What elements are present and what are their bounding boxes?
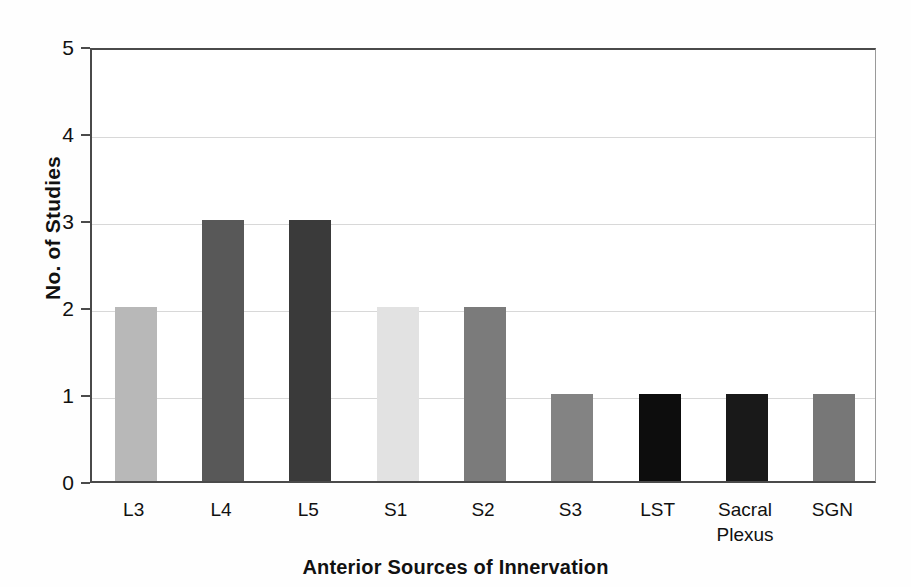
bar-l5 <box>289 220 331 481</box>
y-tick-mark <box>81 395 90 397</box>
bar-chart: No. of Studies 543210 L3L4L5S1S2S3LSTSac… <box>0 0 911 587</box>
bar-lst <box>639 394 681 481</box>
y-tick-label: 2 <box>40 298 74 319</box>
bar-sgn <box>813 394 855 481</box>
bar-s3 <box>551 394 593 481</box>
bar-sacral-plexus <box>726 394 768 481</box>
y-tick-label: 4 <box>40 124 74 145</box>
y-tick-mark <box>81 482 90 484</box>
y-tick-mark <box>81 308 90 310</box>
y-tick-label: 5 <box>40 37 74 58</box>
bar-l4 <box>202 220 244 481</box>
y-tick-mark <box>81 47 90 49</box>
gridline <box>92 137 875 138</box>
x-axis-label-sgn: SGN <box>777 497 887 522</box>
y-tick-mark <box>81 134 90 136</box>
x-axis-label-line: SGN <box>777 497 887 522</box>
y-tick-label: 3 <box>40 211 74 232</box>
bar-s1 <box>377 307 419 481</box>
bar-l3 <box>115 307 157 481</box>
x-axis-title: Anterior Sources of Innervation <box>0 556 911 579</box>
bar-s2 <box>464 307 506 481</box>
plot-area <box>90 48 876 483</box>
y-tick-label: 1 <box>40 385 74 406</box>
y-tick-mark <box>81 221 90 223</box>
x-axis-label-line: Plexus <box>690 522 800 547</box>
y-tick-label: 0 <box>40 472 74 493</box>
